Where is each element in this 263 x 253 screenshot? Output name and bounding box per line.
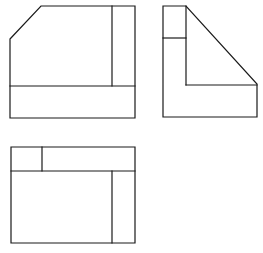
front-view-outline: [10, 6, 135, 118]
top-view-outline: [11, 147, 135, 243]
side-view: [163, 6, 257, 117]
front-view: [10, 6, 135, 118]
top-view: [11, 147, 135, 243]
side-view-outline: [163, 6, 257, 117]
orthographic-drawing: [0, 0, 263, 253]
